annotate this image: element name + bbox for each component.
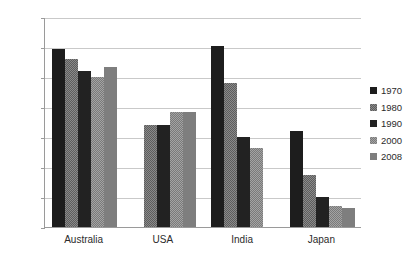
- legend-label: 1990: [381, 119, 402, 129]
- bar-india-1990: [237, 137, 250, 227]
- plot-area: [44, 18, 361, 228]
- bar-australia-1980: [65, 59, 78, 227]
- x-axis-category-label: India: [231, 234, 253, 245]
- bar-chart: 19701980199020002008 70.060.050.040.030.…: [0, 0, 417, 255]
- legend-label: 1970: [381, 86, 402, 96]
- bar-india-2000: [250, 148, 263, 228]
- bar-australia-2008: [104, 67, 117, 228]
- bar-usa-2008: [183, 112, 196, 228]
- bar-japan-2008: [342, 208, 355, 228]
- bar-australia-2000: [91, 77, 104, 227]
- legend-swatch-icon: [370, 137, 377, 144]
- legend-label: 2008: [381, 152, 402, 162]
- bar-australia-1990: [78, 71, 91, 227]
- bar-group: [124, 18, 203, 227]
- legend-label: 1980: [381, 103, 402, 113]
- legend-swatch-icon: [370, 104, 377, 111]
- legend-item-1980: 1980: [370, 103, 402, 113]
- legend-swatch-icon: [370, 153, 377, 160]
- bar-usa-2000: [170, 112, 183, 228]
- bar-india-1980: [224, 83, 237, 227]
- bar-india-1970: [211, 46, 224, 228]
- bar-group: [283, 18, 362, 227]
- x-axis-category-label: Japan: [308, 234, 335, 245]
- x-axis-category-label: Australia: [64, 234, 103, 245]
- legend-item-1990: 1990: [370, 119, 402, 129]
- legend-swatch-icon: [370, 120, 377, 127]
- bar-japan-2000: [329, 206, 342, 227]
- bar-japan-1970: [290, 131, 303, 227]
- y-axis-tick: [41, 228, 45, 229]
- chart-legend: 19701980199020002008: [370, 86, 402, 162]
- bar-japan-1990: [316, 197, 329, 227]
- bar-group: [45, 18, 124, 227]
- legend-item-2000: 2000: [370, 136, 402, 146]
- legend-item-1970: 1970: [370, 86, 402, 96]
- bar-australia-1970: [52, 49, 65, 228]
- legend-label: 2000: [381, 136, 402, 146]
- legend-swatch-icon: [370, 87, 377, 94]
- bar-usa-1990: [157, 125, 170, 227]
- bar-japan-1980: [303, 175, 316, 228]
- x-axis-category-label: USA: [153, 234, 174, 245]
- bar-usa-1980: [144, 125, 157, 227]
- legend-item-2008: 2008: [370, 152, 402, 162]
- bar-group: [204, 18, 283, 227]
